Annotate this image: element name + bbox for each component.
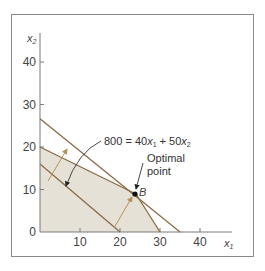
y-tick-label-0: 0 bbox=[29, 225, 36, 239]
y-tick-label-10: 10 bbox=[23, 183, 37, 197]
y-tick-label-40: 40 bbox=[23, 55, 37, 69]
optimal-label-line2: point bbox=[147, 165, 171, 177]
y-tick-label-30: 30 bbox=[23, 98, 37, 112]
x-axis-label: x1 bbox=[223, 237, 234, 250]
x-tick-label-20: 20 bbox=[113, 235, 127, 249]
y-axis-label: x2 bbox=[26, 32, 37, 45]
x-tick-label-40: 40 bbox=[193, 235, 207, 249]
optimal-label-line1: Optimal bbox=[147, 152, 185, 164]
point-b-label: B bbox=[139, 186, 146, 198]
lp-chart: 0 10 20 30 40 10 20 30 40 x2 x1 B 800 = … bbox=[0, 0, 265, 271]
x-tick-label-30: 30 bbox=[153, 235, 167, 249]
x-tick-label-10: 10 bbox=[73, 235, 87, 249]
optimal-point-b bbox=[132, 191, 137, 196]
equation-label: 800 = 40x1 + 50x2 bbox=[104, 135, 191, 148]
y-tick-label-20: 20 bbox=[23, 140, 37, 154]
